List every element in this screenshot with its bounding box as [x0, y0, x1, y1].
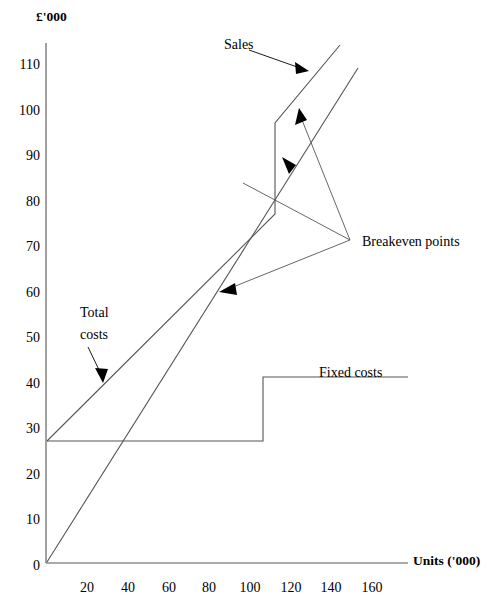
breakeven-chart: £'000 110 100 90 80 70 60 50 40 30 20 10…	[0, 0, 493, 614]
y-tick-80: 80	[6, 194, 40, 210]
y-tick-90: 90	[6, 148, 40, 164]
y-tick-50: 50	[6, 330, 40, 346]
sales-arrowhead	[295, 62, 309, 74]
x-axis-title: Units ('000)	[413, 553, 480, 569]
y-tick-0: 0	[6, 558, 40, 574]
sales-leader-line	[249, 50, 300, 68]
breakeven-lower-arrowhead	[282, 157, 296, 174]
x-tick-40: 40	[111, 580, 145, 596]
x-tick-60: 60	[152, 580, 186, 596]
y-tick-100: 100	[6, 103, 40, 119]
annotation-total-costs-label-line1: Total	[80, 302, 109, 324]
y-axis-title: £'000	[36, 9, 67, 25]
series-total-costs-line	[47, 45, 340, 441]
y-tick-60: 60	[6, 285, 40, 301]
x-tick-160: 160	[355, 580, 389, 596]
breakeven-upper-arrowhead	[295, 108, 307, 125]
y-tick-110: 110	[6, 57, 40, 73]
annotation-breakeven-points-label: Breakeven points	[362, 231, 460, 253]
annotation-fixed-costs-label: Fixed costs	[319, 362, 382, 384]
x-tick-100: 100	[233, 580, 267, 596]
y-tick-30: 30	[6, 421, 40, 437]
y-tick-70: 70	[6, 239, 40, 255]
annotation-total-costs-label-line2: costs	[80, 324, 108, 346]
breakeven-lower-leader-line	[243, 183, 350, 240]
x-tick-80: 80	[192, 580, 226, 596]
chart-canvas	[0, 0, 493, 614]
y-tick-40: 40	[6, 376, 40, 392]
x-tick-120: 120	[274, 580, 308, 596]
breakeven-upper-leader-line	[302, 120, 350, 240]
x-tick-140: 140	[314, 580, 348, 596]
y-tick-10: 10	[6, 512, 40, 528]
y-tick-20: 20	[6, 467, 40, 483]
annotation-sales-label: Sales	[224, 34, 254, 56]
x-tick-20: 20	[70, 580, 104, 596]
breakeven-to-lower-point-line	[228, 240, 350, 289]
total-costs-arrowhead	[95, 368, 108, 383]
